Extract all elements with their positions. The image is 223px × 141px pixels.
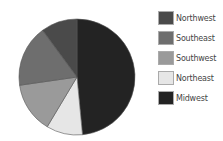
legend-item-northeast: Northeast — [158, 68, 216, 88]
legend-swatch-midwest — [158, 91, 174, 105]
pie-slice-midwest — [77, 19, 135, 135]
legend-item-southwest: Southwest — [158, 48, 216, 68]
legend-label: Northwest — [176, 14, 215, 23]
legend-swatch-southeast — [158, 31, 174, 45]
legend-swatch-northwest — [158, 11, 174, 25]
legend-swatch-southwest — [158, 51, 174, 65]
legend-label: Midwest — [176, 94, 208, 103]
legend: Northwest Southeast Southwest Northeast … — [158, 8, 216, 108]
legend-label: Southeast — [176, 34, 215, 43]
legend-label: Southwest — [176, 54, 216, 63]
legend-item-southeast: Southeast — [158, 28, 216, 48]
legend-label: Northeast — [176, 74, 214, 83]
legend-swatch-northeast — [158, 71, 174, 85]
legend-item-northwest: Northwest — [158, 8, 216, 28]
legend-item-midwest: Midwest — [158, 88, 216, 108]
